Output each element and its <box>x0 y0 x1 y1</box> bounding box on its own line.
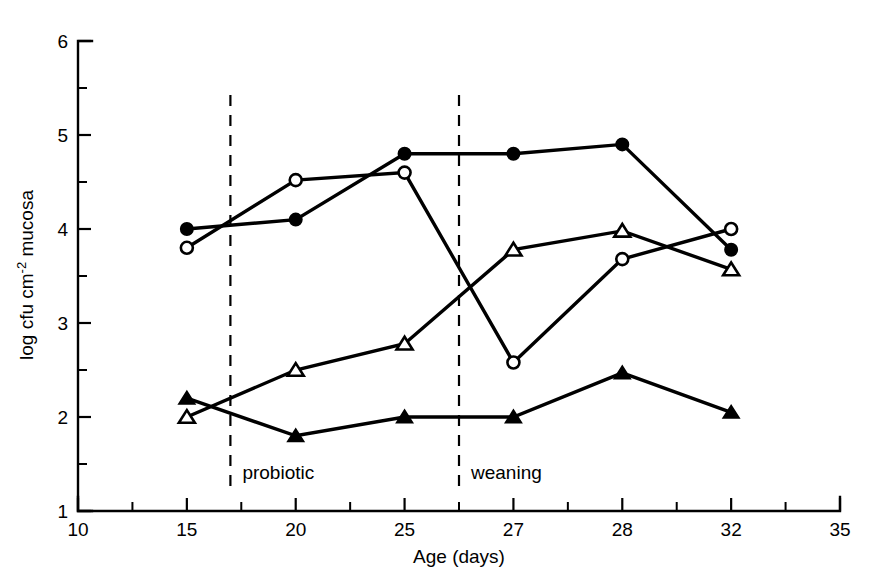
data-point-filled-circle <box>398 148 410 160</box>
y-tick-label: 6 <box>57 31 68 52</box>
x-axis-tick-labels: 1015202527283235 <box>67 519 850 540</box>
y-tick-label: 3 <box>57 313 68 334</box>
annotation-label: probiotic <box>242 462 314 483</box>
x-tick-label: 15 <box>176 519 197 540</box>
y-axis-title-pre: log cfu cm <box>16 273 37 360</box>
annotation-label: weaning <box>470 462 542 483</box>
data-point-filled-triangle <box>179 391 195 404</box>
data-point-filled-circle <box>290 213 302 225</box>
data-point-open-circle <box>616 253 628 265</box>
data-point-open-circle <box>507 356 519 368</box>
x-tick-label: 25 <box>394 519 415 540</box>
data-point-filled-circle <box>181 223 193 235</box>
y-tick-label: 5 <box>57 125 68 146</box>
x-tick-label: 35 <box>829 519 850 540</box>
data-point-filled-circle <box>725 243 737 255</box>
x-tick-label: 10 <box>67 519 88 540</box>
data-point-filled-circle <box>507 148 519 160</box>
y-axis-title-post: mucosa <box>16 190 37 262</box>
data-point-open-circle <box>290 174 302 186</box>
data-point-open-circle <box>725 223 737 235</box>
data-point-filled-triangle <box>614 366 630 379</box>
chart-container: 123456 1015202527283235 probioticweaning… <box>0 0 883 585</box>
data-point-open-circle <box>399 167 411 179</box>
y-axis-tick-labels: 123456 <box>57 31 68 522</box>
x-tick-label: 27 <box>503 519 524 540</box>
series-lines <box>187 144 731 435</box>
y-tick-label: 4 <box>57 219 68 240</box>
annotation-labels: probioticweaning <box>242 462 541 483</box>
x-tick-label: 20 <box>285 519 306 540</box>
x-axis-title: Age (days) <box>413 546 505 567</box>
x-tick-label: 28 <box>612 519 633 540</box>
x-tick-label: 32 <box>721 519 742 540</box>
y-axis-title-superscript: -2 <box>14 262 29 274</box>
data-point-open-triangle <box>179 410 195 423</box>
y-axis-ticks <box>78 41 91 511</box>
svg-text:log cfu cm-2 mucosa: log cfu cm-2 mucosa <box>14 190 37 360</box>
x-axis-ticks <box>78 498 840 511</box>
line-chart: 123456 1015202527283235 probioticweaning… <box>0 0 883 585</box>
y-tick-label: 2 <box>57 407 68 428</box>
data-point-open-circle <box>181 242 193 254</box>
y-tick-label: 1 <box>57 501 68 522</box>
y-axis-title: log cfu cm-2 mucosa <box>14 190 37 360</box>
data-point-filled-circle <box>616 138 628 150</box>
